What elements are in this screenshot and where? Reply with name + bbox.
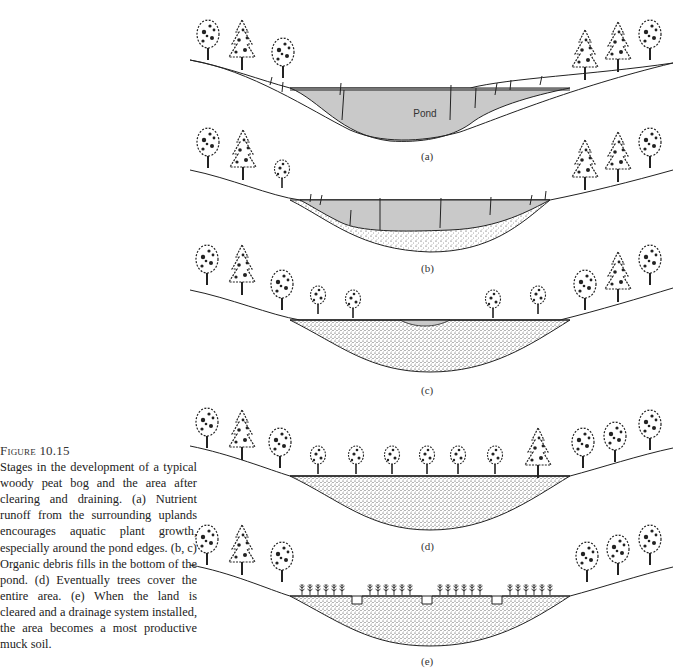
panel-label-a: (a) [421,150,433,162]
panel-b [190,128,673,252]
panel-label-c: (c) [421,384,433,396]
pond-label: Pond [413,108,436,119]
caption-text: Stages in the development of a typical w… [0,460,197,651]
panel-label-b: (b) [421,262,434,274]
bog-stages-illustration: Pond [190,0,673,671]
figure-number: Figure 10.15 [0,443,197,459]
figure-caption: Figure 10.15 Stages in the development o… [0,443,197,652]
panel-d [190,408,673,530]
panel-label-e: (e) [421,655,433,667]
panel-label-d: (d) [421,540,434,552]
crop-rows [300,585,553,595]
panel-a: Pond [190,20,673,141]
